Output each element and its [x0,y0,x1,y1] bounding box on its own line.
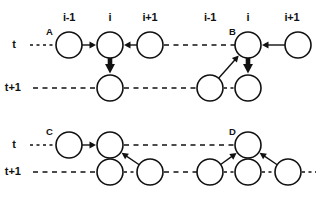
column-label-0: i-1 [49,12,89,23]
column-label-5: i+1 [272,12,312,23]
arrowhead-C-t-im1-to-C-t-i [90,142,97,149]
arrowhead-A-t-i-to-A-t1-i [105,64,115,74]
column-label-1: i [90,12,130,23]
panel-label-3: D [229,127,236,137]
cell-node-A-t-i [97,32,123,58]
cell-node-C-t-i [97,132,123,158]
cell-node-A-t-ip1 [137,32,163,58]
arrowhead-B-t-i-to-B-t1-i [243,64,253,74]
cell-node-A-t-im1 [56,32,82,58]
row-label-0: t [0,39,16,50]
cell-node-C-t1-ip1 [137,159,163,185]
cell-node-B-t1-im1 [197,75,223,101]
column-label-4: i [228,12,268,23]
row-label-3: t+1 [3,166,21,177]
column-label-2: i+1 [130,12,170,23]
column-label-3: i-1 [190,12,230,23]
cell-node-A-t1-i [97,75,123,101]
arrowhead-D-t1-ip1-to-D-t-i [260,153,267,159]
panel-label-2: C [46,127,53,137]
cell-node-B-t-ip1 [285,32,311,58]
cell-node-B-t-i [235,32,261,58]
arrowhead-B-t-ip1-to-B-t-i [262,42,269,49]
panel-label-0: A [46,27,53,37]
cell-node-D-t1-im1 [197,159,223,185]
cell-node-B-t1-i [235,75,261,101]
arrowhead-C-t1-ip1-to-C-t-i [122,153,129,159]
cell-node-D-t1-ip1 [275,159,301,185]
row-label-2: t [0,139,16,150]
arrowhead-D-t1-im1-to-D-t-i [229,153,236,160]
edge-B-t1-im1-to-B-t-i [219,58,237,78]
row-label-1: t+1 [3,82,21,93]
cell-node-D-t1-i [235,159,261,185]
panel-label-1: B [229,27,236,37]
arrowhead-A-t-im1-to-A-t-i [90,42,97,49]
arrowhead-A-t-ip1-to-A-t-i [124,42,131,49]
cell-node-D-t-i [235,132,261,158]
cell-node-C-t1-i [97,159,123,185]
cell-node-C-t-im1 [56,132,82,158]
cellular-automaton-diagram: i-1ii+1i-1ii+1 tt+1tt+1 ABCD [0,0,323,200]
